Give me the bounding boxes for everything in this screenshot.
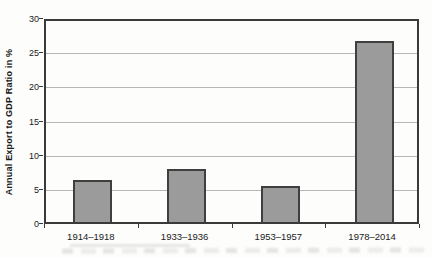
- y-tick-mark-20: [39, 86, 43, 87]
- x-category-label-1933–1936: 1933–1936: [145, 231, 225, 242]
- y-tick-mark-0: [39, 223, 43, 224]
- y-tick-label-25: 25: [13, 48, 39, 58]
- bar-1933–1936: [167, 169, 206, 222]
- y-tick-label-10: 10: [13, 151, 39, 161]
- y-tick-label-20: 20: [13, 82, 39, 92]
- y-tick-label-15: 15: [13, 117, 39, 127]
- y-tick-mark-10: [39, 155, 43, 156]
- bar-1914–1918: [73, 180, 112, 222]
- bar-1978–2014: [355, 41, 394, 222]
- x-category-label-1953–1957: 1953–1957: [238, 231, 318, 242]
- page-bleed-artifact: [62, 247, 428, 253]
- x-tick-mark-3: [325, 224, 326, 228]
- x-category-label-1914–1918: 1914–1918: [51, 231, 131, 242]
- page-bleed-artifact-small: [70, 244, 190, 247]
- y-tick-mark-15: [39, 121, 43, 122]
- y-tick-label-5: 5: [13, 185, 39, 195]
- x-tick-mark-0: [44, 224, 45, 228]
- bar-1953–1957: [261, 186, 300, 222]
- y-tick-mark-25: [39, 52, 43, 53]
- bar-chart-figure: Annual Export to GDP Ratio in % 05101520…: [0, 0, 432, 258]
- x-tick-mark-2: [232, 224, 233, 228]
- y-tick-mark-30: [39, 18, 43, 19]
- x-tick-mark-4: [419, 224, 420, 228]
- plot-area: [44, 19, 419, 224]
- y-tick-label-30: 30: [13, 14, 39, 24]
- y-tick-mark-5: [39, 189, 43, 190]
- x-tick-mark-1: [138, 224, 139, 228]
- x-category-label-1978–2014: 1978–2014: [332, 231, 412, 242]
- y-tick-label-0: 0: [13, 219, 39, 229]
